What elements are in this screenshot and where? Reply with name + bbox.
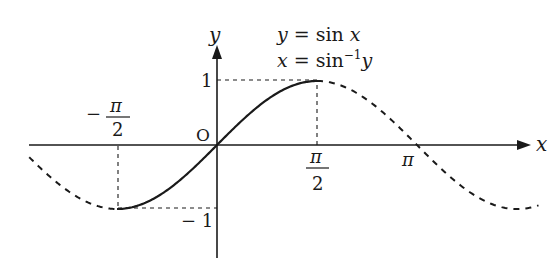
x-tick-half-pi: π 2 [306,146,329,194]
sine-graph: x y O y = sin x x = sin−1y 1 − 1 − π 2 π… [0,0,559,271]
x-tick-neg-half-pi: − π 2 [86,95,130,140]
y-tick-neg-1: − 1 [181,210,213,231]
svg-text:π: π [309,146,323,167]
svg-text:2: 2 [312,173,323,194]
equation-y-sin-x: y = sin x [276,23,361,45]
origin-label: O [196,125,210,145]
svg-text:π: π [109,95,123,116]
x-axis-arrow-icon [517,140,531,150]
equation-x-arcsin-y: x = sin−1y [277,48,373,71]
sine-curve-dashed-left [29,157,117,209]
svg-text:2: 2 [112,119,123,140]
axis-x-label: x [536,132,547,156]
x-tick-pi: π [401,149,415,170]
svg-text:−: − [86,103,101,124]
y-tick-1: 1 [201,70,212,91]
axis-y-label: y [208,23,221,47]
y-axis-arrow-icon [212,45,222,59]
